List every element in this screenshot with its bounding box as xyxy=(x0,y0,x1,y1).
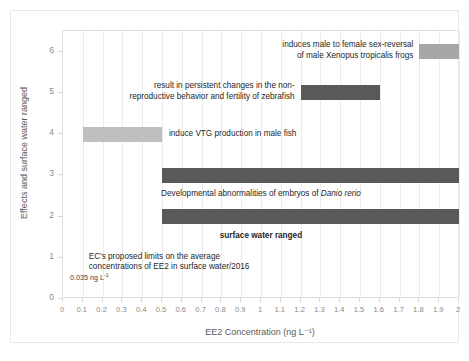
threshold-value: 0.035 ng L-1 xyxy=(70,272,109,283)
gridline xyxy=(281,31,282,297)
bar xyxy=(301,85,380,100)
x-tick-mark xyxy=(201,298,202,302)
bar-label: Developmental abnormalities of embryos o… xyxy=(63,189,459,200)
gridline xyxy=(400,31,401,297)
x-tick-mark xyxy=(379,298,380,302)
gridline xyxy=(380,31,381,297)
x-tick-mark xyxy=(359,298,360,302)
bar xyxy=(419,44,459,59)
gridline xyxy=(261,31,262,297)
x-tick-label: 2 xyxy=(446,305,469,314)
plot-area: induces male to female sex-reversalof ma… xyxy=(62,30,458,298)
x-tick-mark xyxy=(220,298,221,302)
x-tick-mark xyxy=(458,298,459,302)
x-tick-mark xyxy=(141,298,142,302)
species-name: Danio rerio xyxy=(321,189,361,198)
x-tick-mark xyxy=(82,298,83,302)
x-tick-mark xyxy=(62,298,63,302)
gridline xyxy=(360,31,361,297)
x-tick-mark xyxy=(438,298,439,302)
gridline xyxy=(439,31,440,297)
x-tick-mark xyxy=(181,298,182,302)
bar-label: surface water ranged xyxy=(63,231,459,242)
gridline xyxy=(301,31,302,297)
y-tick-label: 1 xyxy=(32,251,54,261)
x-axis-title: EE2 Concentration (ng L⁻¹) xyxy=(62,327,458,337)
bar xyxy=(83,127,162,142)
x-tick-mark xyxy=(240,298,241,302)
y-tick-label: 2 xyxy=(32,210,54,220)
x-tick-mark xyxy=(280,298,281,302)
y-tick-label: 3 xyxy=(32,168,54,178)
bar-label: result in persistent changes in the non-… xyxy=(129,81,294,102)
y-tick-label: 0 xyxy=(32,292,54,302)
x-tick-mark xyxy=(161,298,162,302)
x-tick-mark xyxy=(121,298,122,302)
gridline xyxy=(459,31,460,297)
gridline xyxy=(83,31,84,297)
exponent: -1 xyxy=(104,272,109,278)
ec-proposed-limit: EC's proposed limits on the averageconce… xyxy=(89,252,250,273)
chart-figure: Effects and surface water ranged 0123456… xyxy=(0,0,469,361)
y-tick-label: 6 xyxy=(32,45,54,55)
y-tick-label: 4 xyxy=(32,127,54,137)
y-axis-title: Effects and surface water ranged xyxy=(19,33,29,273)
x-tick-mark xyxy=(300,298,301,302)
x-tick-mark xyxy=(339,298,340,302)
x-tick-mark xyxy=(319,298,320,302)
x-tick-mark xyxy=(399,298,400,302)
bar xyxy=(162,209,459,224)
bar-label: induces male to female sex-reversalof ma… xyxy=(282,40,413,61)
gridline xyxy=(320,31,321,297)
bar-label: induce VTG production in male fish xyxy=(169,129,296,140)
gridline xyxy=(340,31,341,297)
y-tick-label: 5 xyxy=(32,86,54,96)
x-tick-mark xyxy=(418,298,419,302)
gridline xyxy=(419,31,420,297)
bar xyxy=(162,168,459,183)
x-tick-mark xyxy=(260,298,261,302)
x-tick-mark xyxy=(102,298,103,302)
